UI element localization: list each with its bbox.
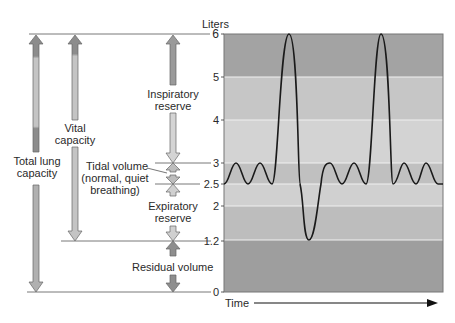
- tidal-volume-arrow: [166, 163, 180, 184]
- tick-1-2: 1.2: [197, 235, 219, 247]
- tick-2-5: 2.5: [197, 178, 219, 190]
- time-arrow: [254, 299, 438, 307]
- tick-4: 4: [197, 114, 219, 126]
- chart-bands: [224, 34, 443, 292]
- tidal-volume-label: Tidal volume (normal, quiet breathing): [76, 160, 154, 196]
- tick-0: 0: [197, 286, 219, 298]
- residual-volume-label: Residual volume: [132, 261, 213, 273]
- tick-5: 5: [197, 71, 219, 83]
- tick-6: 6: [197, 28, 219, 40]
- total-lung-capacity-label: Total lung capacity: [8, 155, 66, 179]
- spirogram-diagram: [0, 0, 455, 323]
- inspiratory-reserve-label: Inspiratory reserve: [143, 88, 203, 112]
- expiratory-reserve-label: Expiratory reserve: [143, 200, 203, 224]
- x-axis-title: Time: [225, 297, 249, 309]
- tick-3: 3: [197, 157, 219, 169]
- vital-capacity-label: Vital capacity: [50, 122, 100, 146]
